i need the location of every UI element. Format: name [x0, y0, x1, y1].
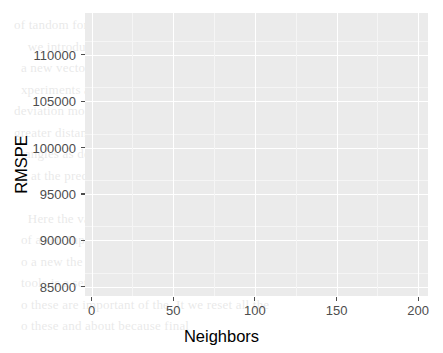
- x-axis-tick-label: 50: [166, 303, 180, 318]
- y-axis-tick-mark: [81, 286, 85, 287]
- x-axis-tick-label: 100: [244, 303, 266, 318]
- x-axis-tick-label: 200: [407, 303, 429, 318]
- axis-ticks-layer: 8500090000950001000001050001100000501001…: [0, 0, 443, 353]
- y-axis-tick-mark: [81, 240, 85, 241]
- x-axis-tick-label: 150: [326, 303, 348, 318]
- x-axis-title: Neighbors: [0, 327, 443, 346]
- x-axis-tick-mark: [418, 297, 419, 301]
- x-axis-tick-mark: [91, 297, 92, 301]
- x-axis-tick-mark: [254, 297, 255, 301]
- y-axis-tick-label: 105000: [14, 94, 76, 109]
- y-axis-tick-mark: [81, 147, 85, 148]
- y-axis-tick-mark: [81, 54, 85, 55]
- y-axis-tick-label: 85000: [14, 279, 76, 294]
- x-axis-tick-mark: [173, 297, 174, 301]
- y-axis-tick-label: 110000: [14, 47, 76, 62]
- y-axis-tick-mark: [81, 193, 85, 194]
- chart-figure: of tandom forests we introduce the class…: [0, 0, 443, 353]
- x-axis-tick-mark: [336, 297, 337, 301]
- x-axis-tick-label: 0: [88, 303, 95, 318]
- y-axis-title: RMSPE: [12, 110, 31, 220]
- y-axis-tick-label: 90000: [14, 233, 76, 248]
- y-axis-tick-mark: [81, 101, 85, 102]
